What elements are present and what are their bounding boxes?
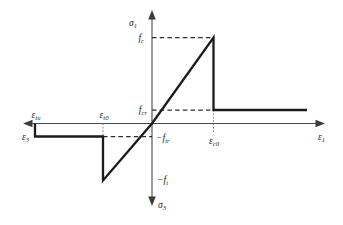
label-minus-ftr: −ftr xyxy=(156,132,170,144)
horizontal-axis-arrow-left xyxy=(23,120,33,128)
label-fcr: fcr xyxy=(139,104,148,116)
vertical-axis-arrow-down xyxy=(148,197,156,207)
label-fc: fc xyxy=(138,32,144,44)
label-eps-1: ε1 xyxy=(318,131,325,143)
stress-strain-plot: σ1 fc fcr −ftr −ft σ3 εtu εt0 εc0 ε3 ε1 xyxy=(0,0,343,225)
label-sigma-1: σ1 xyxy=(129,17,137,29)
label-sigma-3: σ3 xyxy=(158,199,167,211)
label-eps-c0: εc0 xyxy=(209,135,220,147)
label-eps-tu: εtu xyxy=(32,109,42,121)
constitutive-curve xyxy=(35,38,307,181)
vertical-axis-arrow-up xyxy=(148,10,156,20)
label-minus-ft: −ft xyxy=(157,174,168,186)
horizontal-axis-arrow-right xyxy=(316,120,326,128)
label-eps-3: ε3 xyxy=(22,131,30,143)
label-eps-t0: εt0 xyxy=(100,109,110,121)
figure-root: σ1 fc fcr −ftr −ft σ3 εtu εt0 εc0 ε3 ε1 xyxy=(0,0,343,225)
